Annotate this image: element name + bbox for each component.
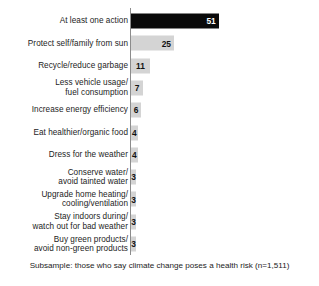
bar: 3 bbox=[131, 170, 136, 185]
category-label: Increase energy efficiency bbox=[2, 105, 128, 114]
bar-container: 6 bbox=[131, 103, 141, 118]
bar-value-label: 3 bbox=[131, 217, 136, 225]
bar-container: 3 bbox=[131, 237, 136, 252]
horizontal-bar-chart: At least one action51Protect self/family… bbox=[0, 0, 319, 286]
bar-row: Conserve water/ avoid tainted water3 bbox=[0, 166, 319, 188]
bar-value-label: 3 bbox=[131, 173, 136, 181]
category-label: Dress for the weather bbox=[2, 150, 128, 159]
category-label: Recycle/reduce garbage bbox=[2, 61, 128, 70]
bar: 6 bbox=[131, 103, 141, 118]
bar: 51 bbox=[131, 14, 219, 29]
bar-value-label: 6 bbox=[134, 106, 139, 114]
bar: 4 bbox=[131, 125, 138, 140]
bar: 25 bbox=[131, 36, 174, 51]
bar-row: Recycle/reduce garbage11 bbox=[0, 55, 319, 77]
bar: 3 bbox=[131, 192, 136, 207]
bar-row: At least one action51 bbox=[0, 10, 319, 32]
bar-container: 51 bbox=[131, 14, 219, 29]
bar-value-label: 11 bbox=[136, 61, 145, 69]
bar-container: 25 bbox=[131, 36, 174, 51]
chart-footnote: Subsample: those who say climate change … bbox=[0, 261, 319, 271]
bar-container: 3 bbox=[131, 192, 136, 207]
bar-value-label: 4 bbox=[132, 128, 137, 136]
category-label: Stay indoors during/ watch out for bad w… bbox=[2, 212, 128, 231]
bar-container: 7 bbox=[131, 80, 143, 95]
bar-row: Stay indoors during/ watch out for bad w… bbox=[0, 211, 319, 233]
bar: 3 bbox=[131, 237, 136, 252]
plot-area: At least one action51Protect self/family… bbox=[0, 0, 319, 258]
bar-row: Protect self/family from sun25 bbox=[0, 32, 319, 54]
bar-value-label: 7 bbox=[135, 84, 140, 92]
category-label: Buy green products/ avoid non-green prod… bbox=[2, 235, 128, 254]
bar-row: Upgrade home heating/ cooling/ventilatio… bbox=[0, 188, 319, 210]
category-label: Conserve water/ avoid tainted water bbox=[2, 168, 128, 187]
category-label: Upgrade home heating/ cooling/ventilatio… bbox=[2, 190, 128, 209]
category-label: At least one action bbox=[2, 16, 128, 25]
bar-value-label: 51 bbox=[206, 17, 215, 25]
bar-container: 4 bbox=[131, 147, 138, 162]
bar: 3 bbox=[131, 214, 136, 229]
category-label: Less vehicle usage/ fuel consumption bbox=[2, 78, 128, 97]
bar: 11 bbox=[131, 58, 150, 73]
bar-container: 11 bbox=[131, 58, 150, 73]
category-label: Eat healthier/organic food bbox=[2, 128, 128, 137]
category-label: Protect self/family from sun bbox=[2, 39, 128, 48]
bar-row: Eat healthier/organic food4 bbox=[0, 122, 319, 144]
bar-row: Less vehicle usage/ fuel consumption7 bbox=[0, 77, 319, 99]
bar-row: Buy green products/ avoid non-green prod… bbox=[0, 233, 319, 255]
bar-container: 3 bbox=[131, 214, 136, 229]
bar-container: 4 bbox=[131, 125, 138, 140]
bar: 7 bbox=[131, 80, 143, 95]
bar-value-label: 4 bbox=[132, 151, 137, 159]
bar: 4 bbox=[131, 147, 138, 162]
bar-container: 3 bbox=[131, 170, 136, 185]
bar-value-label: 25 bbox=[162, 39, 171, 47]
bar-value-label: 3 bbox=[131, 240, 136, 248]
bar-value-label: 3 bbox=[131, 195, 136, 203]
bar-row: Increase energy efficiency6 bbox=[0, 99, 319, 121]
bar-row: Dress for the weather4 bbox=[0, 144, 319, 166]
